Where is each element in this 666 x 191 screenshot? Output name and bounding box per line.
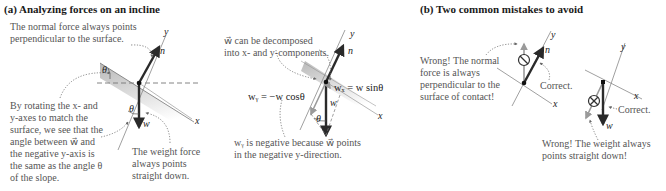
note-wrong-weight: Wrong! The weight always points straight… — [542, 138, 651, 162]
y-axis-label-2: y — [350, 28, 354, 39]
wx-equation: wₓ = w sinθ — [334, 82, 383, 93]
theta-label-2: θ — [316, 113, 321, 124]
note-normal-force: The normal force always points perpendic… — [10, 21, 137, 45]
weight-vector-label-2: w⃗ — [330, 97, 344, 108]
note-correct-weight: Correct. — [618, 104, 651, 116]
normal-vector-arrow — [139, 47, 159, 83]
correct-normal-arrow — [524, 48, 543, 83]
note-wrong-normal: Wrong! The normal force is always perpen… — [420, 55, 500, 103]
x-axis-label: x — [195, 115, 199, 126]
note-rotating-axes: By rotating the x- and y-axes to match t… — [10, 100, 103, 184]
theta-label-top: θ — [102, 64, 107, 75]
wy-component-arrow — [311, 82, 326, 114]
weight-vector-label-b2: w⃗ — [606, 120, 620, 131]
note-wy-negative: wᵧ is negative because w⃗ points in the … — [234, 137, 361, 161]
y-axis-label-b1: y — [551, 29, 555, 40]
note-decompose: w⃗ can be decomposed into x- and y-compo… — [224, 35, 329, 59]
panel-b-title: (b) Two common mistakes to avoid — [420, 3, 583, 15]
note-weight-down: The weight force always points straight … — [132, 146, 200, 182]
panel-a-title: (a) Analyzing forces on an incline — [4, 3, 160, 15]
x-axis-label-b1: x — [553, 98, 557, 109]
wy-equation: wᵧ = −w cosθ — [248, 91, 305, 102]
weight-vector-label: w⃗ — [143, 118, 157, 129]
normal-vector-label-2: n⃗ — [348, 45, 361, 56]
x-axis-label-b2: x — [634, 90, 638, 101]
theta-label-bottom: θ — [129, 103, 134, 114]
normal-vector-label: n⃗ — [160, 45, 173, 56]
y-axis-label: y — [164, 26, 168, 37]
note-correct-normal: Correct. — [540, 80, 573, 92]
y-axis-label-b2: y — [621, 41, 625, 52]
normal-vector-label-b1: n⃗ — [545, 44, 558, 55]
x-axis-label-2: x — [378, 110, 382, 121]
